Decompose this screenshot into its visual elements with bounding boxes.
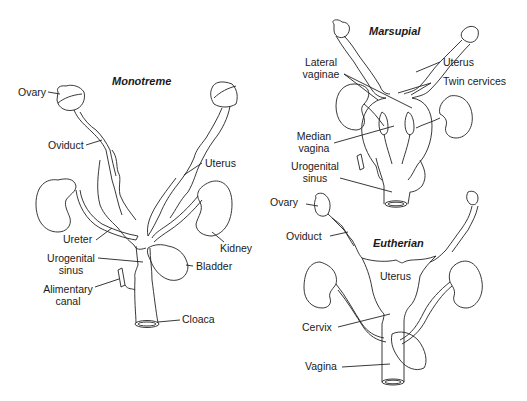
monotreme-ureter-label: Ureter xyxy=(63,233,92,245)
monotreme-title: Monotreme xyxy=(112,75,171,87)
marsupial-uterus-label: Uterus xyxy=(443,56,474,68)
eutherian-ovary-label: Ovary xyxy=(270,196,298,208)
marsupial-urogenital-sinus-label: Urogenital sinus xyxy=(288,160,342,184)
eutherian-drawing xyxy=(304,191,482,385)
monotreme-bladder-label: Bladder xyxy=(196,260,232,272)
monotreme-ovary-label: Ovary xyxy=(18,86,46,98)
monotreme-alimentary-canal-label: Alimentary canal xyxy=(42,283,94,307)
marsupial-median-vagina-label: Median vagina xyxy=(294,130,334,154)
monotreme-oviduct-label: Oviduct xyxy=(48,139,84,151)
marsupial-drawing xyxy=(333,20,478,207)
eutherian-oviduct-label: Oviduct xyxy=(286,230,322,242)
monotreme-right-ovary xyxy=(211,82,238,107)
marsupial-title: Marsupial xyxy=(369,25,420,37)
eutherian-title: Eutherian xyxy=(373,237,424,249)
monotreme-bladder xyxy=(147,245,188,281)
eutherian-vagina-label: Vagina xyxy=(305,360,337,372)
eutherian-uterus xyxy=(362,256,436,322)
monotreme-left-kidney xyxy=(36,179,76,232)
monotreme-right-kidney xyxy=(196,181,232,236)
monotreme-uterus-label: Uterus xyxy=(205,157,236,169)
marsupial-lateral-vaginae-label: Lateral vaginae xyxy=(299,56,343,80)
monotreme-cloaca-label: Cloaca xyxy=(182,313,215,325)
eutherian-uterus-label: Uterus xyxy=(380,270,411,282)
monotreme-left-ovary xyxy=(57,85,85,110)
monotreme-kidney-label: Kidney xyxy=(220,242,252,254)
monotreme-alimentary-canal xyxy=(118,268,125,287)
monotreme-urogenital-sinus-label: Urogenital sinus xyxy=(45,252,97,276)
marsupial-twin-cervices-label: Twin cervices xyxy=(443,75,506,87)
eutherian-cervix-label: Cervix xyxy=(302,321,332,333)
